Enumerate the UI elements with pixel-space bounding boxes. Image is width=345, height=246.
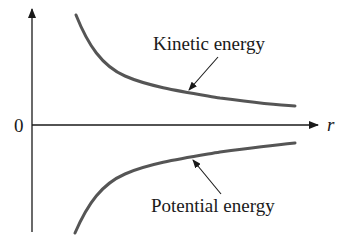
- kinetic-energy-label: Kinetic energy: [153, 33, 266, 54]
- potential-energy-label: Potential energy: [151, 195, 275, 216]
- origin-label: 0: [14, 115, 24, 136]
- energy-diagram: 0 r Kinetic energy Potential energy: [0, 0, 345, 246]
- potential-energy-curve: [75, 143, 295, 233]
- potential-energy-pointer-arrow: [193, 160, 221, 194]
- kinetic-energy-curve: [76, 15, 295, 106]
- x-axis-label: r: [327, 114, 335, 135]
- kinetic-energy-pointer-arrow: [189, 57, 218, 90]
